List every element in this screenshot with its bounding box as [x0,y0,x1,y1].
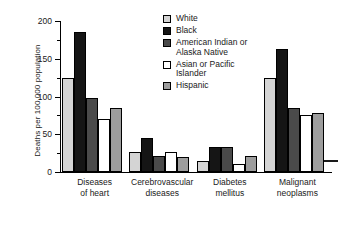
legend-item: Asian or PacificIslander [163,60,283,79]
bar [288,108,300,172]
legend-label-line: White [176,14,198,24]
y-tick-label: 200 [38,17,52,26]
x-axis-label-line: Malignant [248,177,346,188]
legend-label: Black [176,26,197,36]
bar [245,156,257,172]
bar [98,119,110,172]
y-tick-label: 100 [38,92,52,101]
legend-swatch-icon [163,39,171,47]
legend-label-line: Islander [176,69,235,79]
bar [177,157,189,172]
legend-label: Asian or PacificIslander [176,60,235,79]
legend-label: Hispanic [176,81,209,91]
bar [141,138,153,172]
bar [129,152,141,172]
legend-swatch-icon [163,15,171,23]
legend: WhiteBlackAmerican Indian orAlaska Nativ… [163,14,283,93]
legend-item: Black [163,26,283,36]
bar-group [62,21,128,172]
bar [62,78,74,172]
bar [86,98,98,172]
bar [153,156,165,172]
bar [74,32,86,172]
x-axis-label-line: neoplasms [248,188,346,199]
legend-label: White [176,14,198,24]
bar-chart: Deaths per 100,000 population 0501001502… [0,0,355,231]
legend-label-line: Hispanic [176,81,209,91]
bar [165,152,177,172]
x-axis-label: Malignantneoplasms [248,177,346,198]
legend-label: American Indian orAlaska Native [176,38,247,57]
bar [221,147,233,172]
legend-item: White [163,14,283,24]
bar [233,164,245,172]
legend-swatch-icon [163,61,171,69]
bar [197,161,209,172]
bar [209,147,221,172]
legend-item: American Indian orAlaska Native [163,38,283,57]
bar [110,108,122,172]
bar [300,115,312,172]
page-edge-artifact [341,112,353,224]
y-tick-label: 150 [38,55,52,64]
y-tick-label: 0 [47,168,52,177]
legend-swatch-icon [163,27,171,35]
legend-label-line: Alaska Native [176,48,247,58]
x-axis-labels: Diseasesof heartCerebrovasculardiseasesD… [60,177,332,209]
y-tick-label: 50 [43,130,52,139]
bar [312,113,324,172]
page-edge-rule [324,160,338,162]
legend-swatch-icon [163,82,171,90]
y-tick-major [55,172,60,173]
x-axis-line [60,172,332,173]
legend-item: Hispanic [163,81,283,91]
legend-label-line: Black [176,26,197,36]
